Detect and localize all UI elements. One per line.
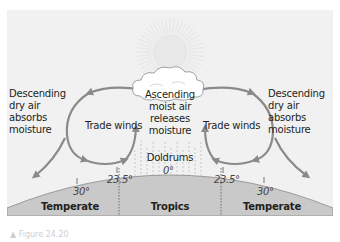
latitude-left-23-5: 23.5° bbox=[107, 174, 133, 185]
left-temperate-zone-label: Temperate zone bbox=[35, 200, 105, 216]
label-line: Descending bbox=[9, 88, 66, 100]
zone-line: zone bbox=[35, 213, 105, 216]
label-line: moisture bbox=[9, 124, 66, 136]
zone-line: Temperate bbox=[35, 200, 105, 213]
ascending-label: Ascending moist air releases moisture bbox=[137, 89, 203, 137]
trade-winds-right-label: Trade winds bbox=[203, 120, 260, 132]
diagram-panel: Descending dry air absorbs moisture Desc… bbox=[7, 10, 333, 216]
left-descending-label: Descending dry air absorbs moisture bbox=[9, 88, 66, 136]
latitude-left-30: 30° bbox=[73, 186, 90, 197]
zone-line: Temperate bbox=[237, 200, 307, 213]
tropics-zone-label: Tropics bbox=[135, 200, 205, 213]
latitude-equator: 0° bbox=[163, 165, 174, 176]
right-descending-label: Descending dry air absorbs moisture bbox=[268, 88, 325, 136]
label-line: dry air bbox=[268, 100, 325, 112]
trade-winds-left-label: Trade winds bbox=[85, 120, 142, 132]
label-line: releases bbox=[137, 113, 203, 125]
doldrums-label: Doldrums bbox=[138, 152, 202, 164]
label-line: absorbs bbox=[9, 112, 66, 124]
label-line: Ascending bbox=[137, 89, 203, 101]
label-line: moist air bbox=[137, 101, 203, 113]
latitude-right-23-5: 23.5° bbox=[214, 174, 240, 185]
label-line: Descending bbox=[268, 88, 325, 100]
latitude-right-30: 30° bbox=[257, 186, 274, 197]
label-line: dry air bbox=[9, 100, 66, 112]
label-line: absorbs bbox=[268, 112, 325, 124]
right-temperate-zone-label: Temperate zone bbox=[237, 200, 307, 216]
label-line: moisture bbox=[137, 125, 203, 137]
label-line: moisture bbox=[268, 124, 325, 136]
zone-line: zone bbox=[237, 213, 307, 216]
figure-caption: ▲ Figure 24.20 bbox=[10, 230, 69, 239]
